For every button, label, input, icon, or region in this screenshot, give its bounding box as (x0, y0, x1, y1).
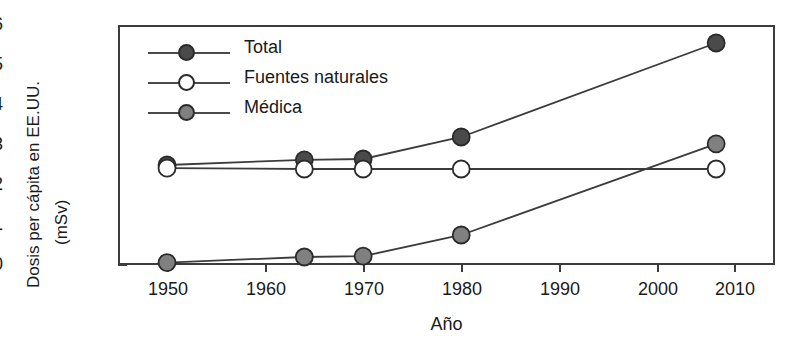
x-tick-label-2010: 2010 (700, 279, 770, 300)
x-tick-label-1960: 1960 (231, 279, 301, 300)
y-tick-label-4: 4 (0, 94, 3, 115)
legend-marker-total (178, 44, 195, 61)
x-tick-mark-1950 (167, 263, 169, 272)
y-axis-title: Dosis per cápita en EE.UU. (mSv) (0, 0, 88, 300)
y-tick-label-5: 5 (0, 54, 3, 75)
x-tick-mark-2010 (734, 263, 736, 272)
legend-item-total: Total (148, 38, 448, 68)
y-tick-label-1: 1 (0, 214, 3, 235)
x-tick-mark-1990 (559, 263, 561, 272)
x-tick-label-1980: 1980 (427, 279, 497, 300)
legend-label-fuentes-naturales: Fuentes naturales (244, 67, 388, 88)
x-tick-mark-1980 (461, 263, 463, 272)
y-tick-label-0: 0 (0, 254, 3, 275)
x-tick-mark-1970 (363, 263, 365, 272)
legend-swatch-medica (148, 98, 230, 128)
chart-figure: Dosis per cápita en EE.UU. (mSv) 0 1 2 3… (0, 0, 793, 347)
legend-marker-medica (178, 104, 195, 121)
legend-item-fuentes-naturales: Fuentes naturales (148, 68, 448, 98)
legend-marker-fuentes-naturales (178, 74, 195, 91)
x-tick-mark-2000 (657, 263, 659, 272)
y-tick-label-3: 3 (0, 134, 3, 155)
legend-swatch-fuentes-naturales (148, 68, 230, 98)
legend-item-medica: Médica (148, 98, 448, 128)
legend-swatch-total (148, 38, 230, 68)
y-axis-title-line-1: Dosis per cápita en EE.UU. (24, 81, 44, 288)
y-axis-title-line-2: (mSv) (52, 200, 72, 245)
y-tick-label-2: 2 (0, 174, 3, 195)
x-tick-label-1970: 1970 (329, 279, 399, 300)
chart-legend: Total Fuentes naturales Médica (148, 38, 448, 128)
x-tick-label-1990: 1990 (525, 279, 595, 300)
x-axis-title: Año (118, 314, 775, 335)
y-tick-label-6: 6 (0, 14, 3, 35)
x-tick-label-2000: 2000 (623, 279, 693, 300)
legend-label-medica: Médica (244, 97, 302, 118)
x-tick-label-1950: 1950 (133, 279, 203, 300)
x-tick-mark-1960 (265, 263, 267, 272)
legend-label-total: Total (244, 37, 282, 58)
